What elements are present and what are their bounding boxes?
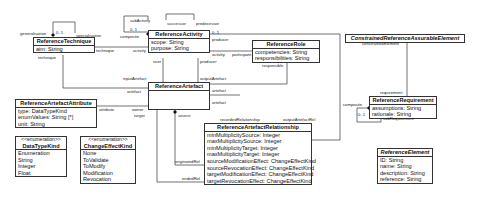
class-attribute: minMultiplicityTarget: Integer [205, 145, 311, 152]
class-name: DataTypeKind [18, 143, 64, 150]
class-name: ReferenceTechnique [34, 38, 94, 46]
label-source: source [178, 113, 191, 118]
class-reference-element[interactable]: ReferenceElement ID: String name: String… [377, 148, 433, 184]
enum-literal: Integer [16, 163, 66, 170]
class-reference-activity[interactable]: ReferenceActivity scope: String purpose:… [148, 30, 210, 53]
enum-literal: None [81, 150, 135, 157]
enum-literal: ToValidate [81, 157, 135, 164]
label-target: target [134, 113, 145, 118]
class-reference-artefact[interactable]: ReferenceArtefact [148, 82, 210, 110]
class-attribute: maxMultiplicityTarget: Integer [205, 151, 311, 158]
label-predecessor: predecessor [196, 21, 219, 26]
class-attribute: assumptions: String [370, 105, 436, 112]
class-header: <<enumeration>> ChangeEffectKind [81, 137, 135, 150]
class-attribute: purpose: String [149, 45, 209, 52]
label-participant: participant [232, 52, 251, 57]
class-attribute: maxMultiplicitySource: Integer [205, 138, 311, 145]
label-multiplicity: 0..1 [358, 112, 365, 117]
class-attribute: ID: String [378, 157, 432, 164]
class-reference-artefact-attribute[interactable]: ReferenceArtefactAttribute type: DataTyp… [15, 99, 97, 128]
class-attribute: aim: String [34, 46, 94, 53]
label-ended-rel: endedRel [182, 176, 200, 181]
class-attribute: description: String [378, 170, 432, 177]
label-originated-rel: originatedRel [175, 159, 200, 164]
class-name: ReferenceElement [378, 149, 432, 157]
class-attribute: minMultiplicitySource: Integer [205, 132, 311, 139]
label-activity: activity [212, 52, 225, 57]
enum-change-effect-kind[interactable]: <<enumeration>> ChangeEffectKind None To… [80, 136, 136, 184]
class-attribute: responsibilities: String [253, 55, 319, 62]
class-reference-artefact-relationship[interactable]: ReferenceArtefactRelationship minMultipl… [204, 123, 312, 185]
class-header: <<enumeration>> DataTypeKind [16, 137, 66, 150]
label-subactivity: subActivity [130, 18, 150, 23]
label-activity: activity [133, 48, 146, 53]
class-attribute: name: String [378, 163, 432, 170]
label-producer: producer [200, 59, 217, 64]
label-multiplicity: 0..1 [130, 27, 137, 32]
label-specialisation: specialisation [76, 33, 101, 38]
label-user: user [153, 59, 161, 64]
class-attribute: targetModificationEffect: ChangeEffectKi… [205, 171, 311, 178]
class-attribute: competencies: String [253, 49, 319, 56]
label-artefact: artefact [127, 89, 141, 94]
label-sub-requirement: subRequirement [383, 116, 414, 121]
stereotype: <<enumeration>> [83, 137, 133, 143]
enum-literal: Revocation [81, 176, 135, 183]
label-artefact: artefact [212, 100, 226, 105]
enum-data-type-kind[interactable]: <<enumeration>> DataTypeKind Enumeration… [15, 136, 67, 177]
class-name: ChangeEffectKind [83, 143, 133, 150]
label-requirement: requirement [380, 90, 402, 95]
class-attribute: type: DataTypeKind [16, 108, 96, 115]
class-attribute: reference: String [378, 176, 432, 183]
stereotype: <<enumeration>> [18, 137, 64, 143]
label-output-artefact-rel: outputArtefactRel [283, 117, 315, 122]
label-composite: composite [343, 102, 362, 107]
class-attribute: unit: String [16, 121, 96, 128]
enum-literal: String [16, 157, 66, 164]
class-attribute: enumValues: String [*] [16, 114, 96, 121]
class-attribute: scope: String [149, 39, 209, 46]
class-attribute: targetRevocationEffect: ChangeEffectKind [205, 178, 311, 185]
label-constrained-element: constrainedElement [362, 41, 399, 46]
label-artefact: artefact [212, 88, 226, 93]
class-name: ReferenceArtefact [149, 83, 209, 91]
label-producer: producer [212, 37, 229, 42]
label-input-artefact: inputArtefact [123, 76, 147, 81]
class-name: ReferenceRequirement [370, 97, 436, 105]
label-multiplicity: 0..1 [56, 30, 63, 35]
label-output-artefact: outputArtefact [200, 76, 226, 81]
class-attribute: sourceRevocationEffect: ChangeEffectKind [205, 165, 311, 172]
label-recorded-relationship: recordedRelationship [220, 117, 260, 122]
class-reference-role[interactable]: ReferenceRole competencies: String respo… [252, 40, 320, 63]
label-multiplicity: 0..1 [212, 30, 219, 35]
label-owner: owner [132, 107, 143, 112]
label-generalisation: generalisation [20, 31, 46, 36]
enum-literal: Enumeration [16, 150, 66, 157]
class-name: ReferenceActivity [149, 31, 209, 39]
class-name: ReferenceArtefactAttribute [16, 100, 96, 108]
label-responsible: responsible [262, 63, 283, 68]
class-attribute: sourceModificationEffect: ChangeEffectKi… [205, 158, 311, 165]
label-attribute: attribute [99, 107, 114, 112]
label-successor: successor [167, 21, 186, 26]
class-name: ReferenceArtefactRelationship [205, 124, 311, 132]
class-reference-technique[interactable]: ReferenceTechnique aim: String [33, 37, 95, 53]
class-name: ReferenceRole [253, 41, 319, 49]
enum-literal: ToModify [81, 163, 135, 170]
enum-literal: Modification [81, 170, 135, 177]
label-composite: composite [120, 34, 139, 39]
label-technique: technique [96, 48, 114, 53]
enum-literal: Float [16, 170, 66, 177]
label-technique: technique [38, 55, 56, 60]
